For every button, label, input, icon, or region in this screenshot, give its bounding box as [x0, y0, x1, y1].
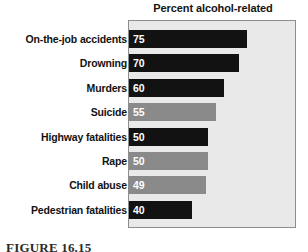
bar-row: Drowning70: [0, 51, 308, 75]
bar-value-label: 50: [133, 152, 144, 170]
bar-row: Murders60: [0, 76, 308, 100]
bar-row: Highway fatalities50: [0, 125, 308, 149]
category-label: Highway fatalities: [0, 125, 127, 149]
category-label: On-the-job accidents: [0, 27, 127, 51]
bar-value-label: 75: [133, 30, 144, 48]
category-label: Suicide: [0, 100, 127, 124]
chart-title: Percent alcohol-related: [128, 2, 298, 14]
bar: [129, 54, 239, 72]
category-label: Drowning: [0, 51, 127, 75]
category-label: Rape: [0, 149, 127, 173]
figure-root: Percent alcohol-related On-the-job accid…: [0, 0, 308, 252]
bar-row: Rape50: [0, 149, 308, 173]
bar-value-label: 60: [133, 79, 144, 97]
bar-row: On-the-job accidents75: [0, 27, 308, 51]
bar-row: Child abuse49: [0, 173, 308, 197]
figure-caption: FIGURE 16.15: [6, 240, 91, 252]
bar-value-label: 49: [133, 176, 144, 194]
bar-row: Suicide55: [0, 100, 308, 124]
category-label: Murders: [0, 76, 127, 100]
bar-value-label: 50: [133, 128, 144, 146]
bar-row: Pedestrian fatalities40: [0, 198, 308, 222]
bar-value-label: 70: [133, 54, 144, 72]
bar-value-label: 40: [133, 201, 144, 219]
bar-value-label: 55: [133, 103, 144, 121]
category-label: Pedestrian fatalities: [0, 198, 127, 222]
category-label: Child abuse: [0, 173, 127, 197]
bar: [129, 30, 247, 48]
